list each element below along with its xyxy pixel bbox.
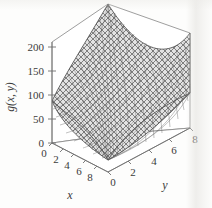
z-axis-title: g(x, y) [4,82,17,112]
x-tick-label-2: 2 [53,153,59,165]
z-tick-label-50: 50 [33,113,45,125]
x-tick-label-6: 6 [76,165,82,177]
x-axis-title: x [66,188,73,202]
surface-plot-figure: 200 150 100 50 0 g(x, y) 0 2 4 6 8 x [0,0,212,208]
y-tick-label-0: 0 [110,176,116,188]
y-axis-title: y [161,178,168,192]
x-tick-label-8: 8 [87,171,93,183]
z-tick-label-200: 200 [28,41,45,53]
y-tick-label-2: 2 [130,166,136,178]
x-tick-label-0: 0 [41,147,47,159]
surface-plot-canvas: 200 150 100 50 0 g(x, y) 0 2 4 6 8 x [0,0,212,208]
x-tick-label-4: 4 [64,159,70,171]
y-tick-label-8: 8 [192,133,198,145]
z-axis: 200 150 100 50 0 g(x, y) [4,41,56,149]
y-tick-label-6: 6 [171,144,177,156]
z-tick-label-150: 150 [28,65,45,77]
y-tick-label-4: 4 [151,155,157,167]
z-tick-label-100: 100 [28,89,45,101]
